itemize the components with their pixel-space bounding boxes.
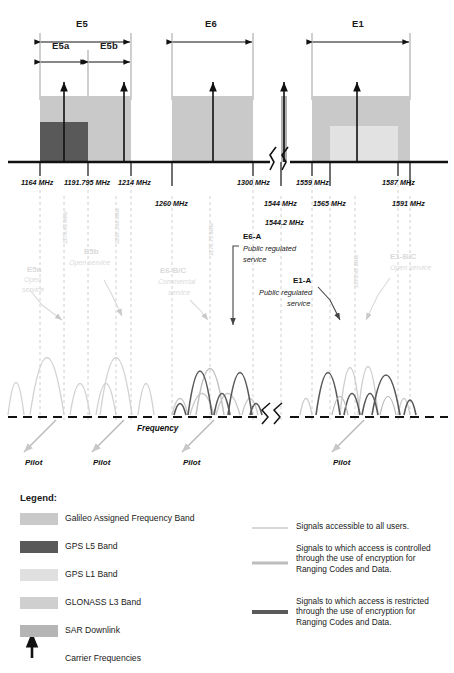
legend-line-label-restricted: Signals to which access is restricted th… bbox=[296, 596, 446, 627]
carrier-label-117645: 1176.45 MHz bbox=[62, 211, 68, 244]
freq-tick-1214: 1214 MHz bbox=[118, 178, 151, 187]
service-subtitle-e5b: Open service bbox=[69, 259, 110, 266]
legend-line-label-open: Signals accessible to all users. bbox=[296, 521, 446, 531]
legend-swatch-gps-l1 bbox=[20, 569, 58, 581]
spectrum-e5b bbox=[96, 358, 154, 416]
legend-label-carrier-frequencies: Carrier Frequencies bbox=[65, 653, 141, 663]
spectrum-e5a bbox=[8, 358, 90, 416]
freq-tick-1544: 1544 MHz bbox=[264, 199, 297, 208]
frequency-plan-diagram: E5 E5a E5b E6 E1 1164 MHz 1191.795 MHz 1… bbox=[0, 0, 454, 673]
legend-label-gps-l1: GPS L1 Band bbox=[65, 569, 118, 579]
service-title-e5b: E5b bbox=[84, 247, 99, 256]
service-subtitle-e6bc-2: service bbox=[168, 289, 190, 296]
service-subtitle-e6a-1: Public regulated bbox=[243, 244, 296, 253]
legend-label-galileo-band: Galileo Assigned Frequency Band bbox=[65, 513, 194, 523]
service-title-e1a: E1-A bbox=[293, 276, 311, 285]
legend-swatch-galileo-band bbox=[20, 513, 58, 525]
legend-label-glonass-l3: GLONASS L3 Band bbox=[65, 597, 141, 607]
service-title-e5a: E5a bbox=[27, 265, 41, 274]
freq-tick-1591: 1591 MHz bbox=[392, 199, 425, 208]
legend-swatch-gps-l5 bbox=[20, 541, 58, 553]
legend-line-label-controlled: Signals to which access is controlled th… bbox=[296, 543, 446, 574]
service-subtitle-e1a-1: Public regulated bbox=[259, 288, 312, 297]
service-subtitle-e1bc: Open service bbox=[390, 264, 431, 271]
band-rectangles bbox=[40, 96, 410, 162]
frequency-axis-label: Frequency bbox=[137, 424, 178, 433]
service-subtitle-e6a-2: service bbox=[243, 255, 266, 264]
service-subtitle-e5a-2: service bbox=[22, 286, 44, 293]
freq-tick-1260: 1260 MHz bbox=[155, 199, 188, 208]
service-title-e1bc: E1-B/C bbox=[390, 252, 416, 261]
legend-title: Legend: bbox=[20, 492, 57, 503]
freq-tick-15442: 1544.2 MHz bbox=[265, 218, 304, 227]
legend-line-samples bbox=[252, 528, 288, 612]
carrier-label-127875: 1278.75 MHz bbox=[208, 223, 214, 256]
service-title-e6a: E6-A bbox=[243, 232, 261, 241]
freq-tick-1565: 1565 MHz bbox=[313, 199, 346, 208]
band-label-e5a: E5a bbox=[52, 40, 70, 51]
legend-label-sar-downlink: SAR Downlink bbox=[65, 625, 120, 635]
freq-tick-1587: 1587 MHz bbox=[382, 178, 415, 187]
carrier-label-120714: 1207.140 MHz bbox=[114, 208, 120, 244]
band-label-e5b: E5b bbox=[100, 40, 118, 51]
legend-label-gps-l5: GPS L5 Band bbox=[65, 541, 118, 551]
band-label-e6: E6 bbox=[205, 18, 217, 29]
band-label-e5: E5 bbox=[76, 18, 88, 29]
service-title-e6bc: E6-B/C bbox=[160, 266, 186, 275]
legend-swatch-sar-downlink bbox=[20, 625, 58, 637]
pilot-label-3: Pilot bbox=[183, 458, 200, 467]
carrier-label-157542: 1575.42 MHz bbox=[353, 255, 359, 288]
service-subtitle-e5a-1: Open bbox=[24, 276, 41, 283]
freq-tick-1559: 1559 MHz bbox=[296, 178, 329, 187]
pilot-label-4: Pilot bbox=[333, 458, 350, 467]
pilot-arrows bbox=[24, 420, 364, 452]
legend-swatch-glonass-l3 bbox=[20, 597, 58, 609]
freq-tick-1300: 1300 MHz bbox=[237, 178, 270, 187]
freq-tick-1191795: 1191.795 MHz bbox=[64, 178, 110, 187]
spectrum-e1-a bbox=[316, 373, 416, 416]
service-subtitle-e1a-2: service bbox=[287, 299, 310, 308]
pilot-label-1: Pilot bbox=[25, 458, 42, 467]
freq-tick-1164: 1164 MHz bbox=[21, 178, 53, 187]
service-subtitle-e6bc-1: Commercial bbox=[158, 278, 195, 285]
pilot-label-2: Pilot bbox=[93, 458, 110, 467]
guide-lines bbox=[40, 178, 410, 420]
band-label-e1: E1 bbox=[352, 18, 364, 29]
